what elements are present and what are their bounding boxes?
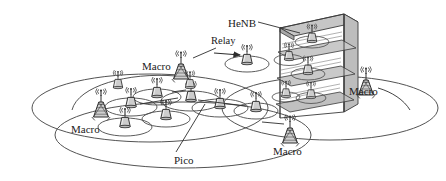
label-pico: Pico bbox=[174, 155, 194, 166]
label-macro-3: Macro bbox=[71, 124, 100, 135]
label-macro-4: Macro bbox=[273, 146, 302, 157]
label-macro-1: Macro bbox=[142, 61, 171, 72]
hetnet-diagram bbox=[0, 0, 446, 181]
label-relay: Relay bbox=[211, 36, 236, 47]
figure-canvas: HeNB Relay Macro Macro Macro Macro Pico bbox=[0, 0, 446, 181]
label-henb: HeNB bbox=[228, 18, 256, 29]
label-macro-2: Macro bbox=[349, 86, 378, 97]
